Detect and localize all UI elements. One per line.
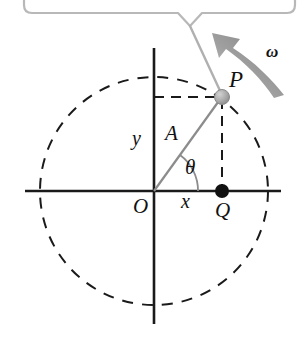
point-q-marker <box>215 184 229 198</box>
callout-balloon <box>24 0 295 26</box>
label-point-p: P <box>229 68 243 91</box>
figure-canvas <box>0 0 302 346</box>
label-x-projection: x <box>181 191 190 211</box>
label-point-q: Q <box>215 200 230 221</box>
circular-motion-figure: P ω A y θ x O Q <box>0 0 302 346</box>
point-p-marker <box>215 90 230 105</box>
label-y-projection: y <box>132 128 141 148</box>
label-radius-a: A <box>165 123 178 144</box>
label-origin-o: O <box>133 196 148 217</box>
label-angle-theta: θ <box>185 157 195 178</box>
label-angular-velocity: ω <box>266 43 278 60</box>
